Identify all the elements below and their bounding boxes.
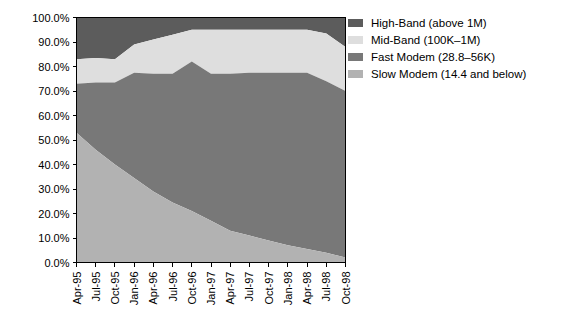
x-axis: Apr-95Jul-95Oct-95Jan-96Apr-96Jul-96Oct-… xyxy=(71,263,352,306)
legend: High-Band (above 1M)Mid-Band (100K–1M)Fa… xyxy=(348,17,526,80)
x-tick-label: Oct-96 xyxy=(186,272,198,305)
y-tick-label: 100.0% xyxy=(32,12,70,24)
x-tick-label: Apr-95 xyxy=(71,272,83,305)
x-tick-label: Jul-97 xyxy=(243,272,255,302)
y-tick-label: 40.0% xyxy=(38,159,69,171)
legend-swatch xyxy=(348,36,363,44)
legend-label: Fast Modem (28.8–56K) xyxy=(371,51,495,63)
x-tick-label: Jul-98 xyxy=(320,272,332,302)
y-tick-label: 70.0% xyxy=(38,85,69,97)
y-tick-label: 80.0% xyxy=(38,61,69,73)
stacked-area-chart: 0.0%10.0%20.0%30.0%40.0%50.0%60.0%70.0%8… xyxy=(0,0,576,321)
x-tick-label: Oct-95 xyxy=(109,272,121,305)
y-tick-label: 10.0% xyxy=(38,232,69,244)
y-tick-label: 50.0% xyxy=(38,134,69,146)
legend-swatch xyxy=(348,70,363,78)
y-tick-label: 30.0% xyxy=(38,183,69,195)
plot-areas xyxy=(77,18,346,263)
x-tick-label: Apr-97 xyxy=(224,272,236,305)
legend-swatch xyxy=(348,53,363,61)
y-tick-label: 0.0% xyxy=(44,257,69,269)
x-tick-label: Jan-97 xyxy=(205,272,217,306)
legend-label: Slow Modem (14.4 and below) xyxy=(371,68,526,80)
y-axis: 0.0%10.0%20.0%30.0%40.0%50.0%60.0%70.0%8… xyxy=(32,12,76,269)
legend-swatch xyxy=(348,19,363,27)
x-tick-label: Jan-96 xyxy=(128,272,140,306)
x-tick-label: Apr-98 xyxy=(301,272,313,305)
y-tick-label: 60.0% xyxy=(38,110,69,122)
legend-label: Mid-Band (100K–1M) xyxy=(371,34,480,46)
legend-label: High-Band (above 1M) xyxy=(371,17,487,29)
chart-canvas: 0.0%10.0%20.0%30.0%40.0%50.0%60.0%70.0%8… xyxy=(0,0,576,321)
x-tick-label: Jul-95 xyxy=(90,272,102,302)
x-tick-label: Jul-96 xyxy=(167,272,179,302)
y-tick-label: 20.0% xyxy=(38,208,69,220)
x-tick-label: Oct-98 xyxy=(340,272,352,305)
x-tick-label: Oct-97 xyxy=(263,272,275,305)
x-tick-label: Apr-96 xyxy=(147,272,159,305)
x-tick-label: Jan-98 xyxy=(282,272,294,306)
y-tick-label: 90.0% xyxy=(38,36,69,48)
